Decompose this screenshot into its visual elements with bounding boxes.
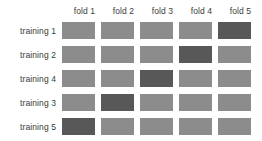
- fold-header-row: fold 1 fold 2 fold 3 fold 4 fold 5: [68, 4, 256, 19]
- cell-r1-fold-1: [62, 22, 95, 39]
- table-row: training 3: [0, 94, 262, 111]
- column-header-fold-2: fold 2: [107, 4, 140, 19]
- cell-r3-fold-4: [179, 70, 212, 87]
- column-header-fold-3: fold 3: [146, 4, 179, 19]
- cell-r3-fold-2: [101, 70, 134, 87]
- cell-r5-fold-4: [179, 118, 212, 135]
- column-header-fold-4: fold 4: [185, 4, 218, 19]
- cell-r4-fold-4: [179, 94, 212, 111]
- table-row: training 5: [0, 118, 262, 135]
- cell-r5-fold-3: [140, 118, 173, 135]
- cross-validation-fold-diagram: fold 1 fold 2 fold 3 fold 4 fold 5 train…: [0, 0, 262, 141]
- cell-r3-fold-5: [218, 70, 251, 87]
- cell-r2-fold-5: [218, 46, 251, 63]
- column-header-fold-1: fold 1: [68, 4, 101, 19]
- cell-r5-fold-1: [62, 118, 95, 135]
- cell-r4-fold-1: [62, 94, 95, 111]
- cell-r4-fold-3: [140, 94, 173, 111]
- cell-r2-fold-1: [62, 46, 95, 63]
- fold-grid-body: training 1 training 2 training 4: [0, 22, 262, 141]
- cell-r2-fold-2: [101, 46, 134, 63]
- cell-r1-fold-5: [218, 22, 251, 39]
- row-label-training-1: training 1: [0, 26, 62, 36]
- cell-r3-fold-1: [62, 70, 95, 87]
- row-label-training-2: training 2: [0, 50, 62, 60]
- row-cells: [62, 22, 262, 39]
- cell-r5-fold-5: [218, 118, 251, 135]
- table-row: training 2: [0, 46, 262, 63]
- table-row: training 1: [0, 22, 262, 39]
- cell-r5-fold-2: [101, 118, 134, 135]
- row-cells: [62, 70, 262, 87]
- cell-r1-fold-3: [140, 22, 173, 39]
- cell-r2-fold-4: [179, 46, 212, 63]
- row-cells: [62, 118, 262, 135]
- row-label-training-3: training 3: [0, 98, 62, 108]
- row-cells: [62, 94, 262, 111]
- cell-r4-fold-5: [218, 94, 251, 111]
- cell-r2-fold-3: [140, 46, 173, 63]
- table-row: training 4: [0, 70, 262, 87]
- column-header-fold-5: fold 5: [224, 4, 257, 19]
- row-label-training-5: training 5: [0, 122, 62, 132]
- cell-r1-fold-2: [101, 22, 134, 39]
- cell-r3-fold-3: [140, 70, 173, 87]
- cell-r4-fold-2: [101, 94, 134, 111]
- row-cells: [62, 46, 262, 63]
- row-label-training-4: training 4: [0, 74, 62, 84]
- cell-r1-fold-4: [179, 22, 212, 39]
